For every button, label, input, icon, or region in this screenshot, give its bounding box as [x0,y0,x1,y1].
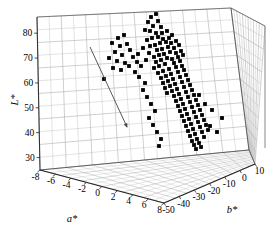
data-point [159,25,163,29]
data-point [111,66,115,70]
data-point [185,112,189,116]
data-point [188,100,192,104]
data-point [190,139,194,143]
data-point [107,56,111,60]
data-point [187,117,191,121]
plot-canvas: 304050607080 -8-6-4-202468 -50-40-30-20-… [0,0,274,242]
data-point [152,66,156,70]
data-point [113,50,117,54]
data-point [176,55,180,59]
a-star-axis-title: a* [67,213,78,224]
data-point [192,143,196,147]
data-point [148,29,152,33]
data-point [200,113,204,117]
b-star-tick-label: 10 [255,166,265,176]
data-point [194,98,198,102]
data-point [173,82,177,86]
b-star-axis-title: b* [227,204,238,215]
data-point [146,20,150,24]
data-point [156,71,160,75]
data-point [162,52,166,56]
data-point [148,44,152,48]
data-point [203,102,207,106]
data-point [190,88,194,92]
data-point [152,55,156,59]
data-point [159,76,163,80]
scatter-3d-figure: 304050607080 -8-6-4-202468 -50-40-30-20-… [0,0,274,242]
data-point [182,119,186,123]
data-point [206,128,210,132]
data-point [179,49,183,53]
data-point [194,115,198,119]
data-point [135,60,139,64]
data-point [204,123,208,127]
data-point [137,75,141,79]
data-point [174,39,178,43]
data-point [170,57,174,61]
data-point [215,130,219,134]
data-point [118,44,122,48]
data-point [184,124,188,128]
data-point [143,81,147,85]
data-point [179,97,183,101]
data-point [125,42,129,46]
b-star-tick-label: -30 [192,192,205,202]
data-point [165,29,169,33]
data-point [177,92,181,96]
data-point [164,40,168,44]
data-point [197,93,201,97]
data-point [191,127,195,131]
data-point [172,46,176,50]
data-point [139,64,143,68]
data-point [197,141,201,145]
a-star-tick-label: 6 [142,200,147,210]
data-point [220,116,224,120]
data-point [164,74,168,78]
data-point [167,67,171,71]
b-star-tick-label: -40 [177,199,190,209]
data-point [159,137,163,141]
data-point [178,59,182,63]
b-star-tick-label: 0 [242,173,247,183]
data-point [144,58,148,62]
data-point [171,77,175,81]
data-point [151,123,155,127]
data-point [145,38,149,42]
data-point [156,35,160,39]
data-point [168,50,172,54]
data-point [133,70,137,74]
data-point [186,95,190,99]
data-point [192,110,196,114]
a-star-tick-label: -4 [63,180,71,190]
data-point [127,64,131,68]
a-star-tick-label: -2 [78,184,86,194]
b-star-tick-label: -20 [208,186,221,196]
data-point [160,31,164,35]
data-point [210,108,214,112]
data-point [188,134,192,138]
data-point [194,147,198,151]
data-point [174,51,178,55]
data-point [183,107,187,111]
data-point [184,73,188,77]
l-star-tick-label: 40 [25,128,35,138]
data-point [150,36,154,40]
data-point [176,104,180,108]
a-star-tick-label: 2 [111,192,116,202]
data-point [199,145,203,149]
data-point [151,24,155,28]
data-point [166,79,170,83]
data-point [155,48,159,52]
data-point [141,88,145,92]
data-point [155,130,159,134]
data-point [154,12,158,16]
data-point [202,118,206,122]
data-point [196,120,200,124]
l-star-tick-label: 60 [24,78,34,88]
a-star-tick-label: -8 [32,172,40,182]
data-point [163,62,167,66]
b-star-tick-label: -50 [162,205,175,215]
data-point [189,122,193,126]
data-point [147,116,151,120]
data-point [190,105,194,109]
